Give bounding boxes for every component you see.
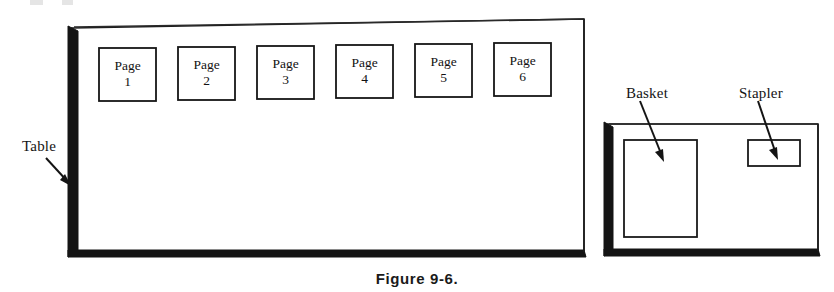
page-label-6: Page 6	[494, 53, 551, 86]
page-label-word: Page	[430, 54, 456, 69]
page-label-1: Page 1	[99, 58, 156, 91]
page-label-number: 6	[494, 69, 551, 85]
page-label-word: Page	[114, 58, 140, 73]
figure-9-6: Table Basket Stapler Page 1 Page 2 Page …	[0, 0, 834, 292]
stapler-label: Stapler	[739, 86, 783, 102]
table-callout-arrow	[46, 158, 71, 186]
page-label-2: Page 2	[178, 57, 235, 90]
page-label-word: Page	[351, 55, 377, 70]
page-label-number: 5	[415, 70, 472, 86]
figure-line-art	[0, 0, 834, 292]
page-label-number: 1	[99, 74, 156, 90]
page-label-number: 4	[336, 71, 393, 87]
page-label-4: Page 4	[336, 55, 393, 88]
page-label-word: Page	[509, 53, 535, 68]
basket-label: Basket	[626, 86, 668, 102]
page-label-number: 3	[257, 72, 314, 88]
page-label-number: 2	[178, 73, 235, 89]
page-label-word: Page	[272, 56, 298, 71]
figure-caption: Figure 9-6.	[0, 270, 834, 287]
page-label-5: Page 5	[415, 54, 472, 87]
table-label: Table	[22, 139, 56, 155]
page-label-3: Page 3	[257, 56, 314, 89]
page-label-word: Page	[193, 57, 219, 72]
